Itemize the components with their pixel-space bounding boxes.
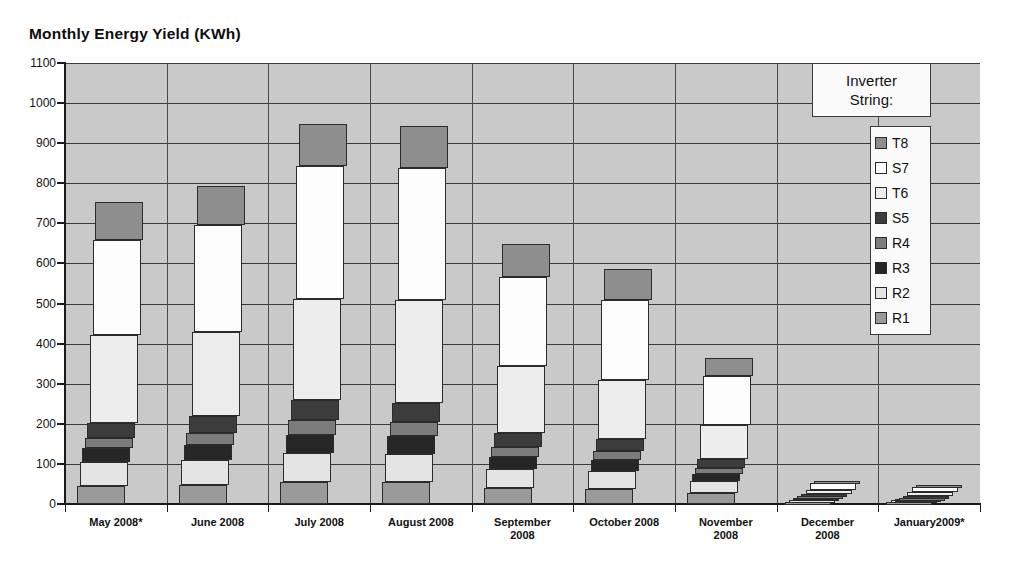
legend-title-line-1: Inverter xyxy=(846,71,897,90)
bar-segment xyxy=(382,482,430,504)
bar-segment xyxy=(296,166,344,298)
y-tick-label: 400 xyxy=(16,339,56,349)
bar-segment xyxy=(499,277,547,366)
bar-segment xyxy=(194,225,242,332)
bar-segment xyxy=(484,488,532,504)
chart-container: Monthly Energy Yield (KWh) 0100200300400… xyxy=(0,0,1032,587)
bar-segment xyxy=(299,124,347,167)
legend-item[interactable]: R4 xyxy=(875,230,930,255)
legend-title-line-2: String: xyxy=(850,90,893,109)
bar-segment xyxy=(489,457,537,469)
bar-segment xyxy=(90,335,138,422)
bar-segment xyxy=(695,468,743,474)
bar-segment xyxy=(181,460,229,485)
bar-segment xyxy=(916,485,962,488)
bar-segment xyxy=(502,244,550,277)
x-tick-mark xyxy=(65,505,66,512)
bar-segment xyxy=(692,474,740,481)
legend-item-label: R3 xyxy=(892,261,910,275)
bar-segment xyxy=(810,483,856,490)
legend-swatch-icon xyxy=(875,187,887,199)
bar-segment xyxy=(806,490,852,494)
bar-segment xyxy=(77,486,125,504)
gridline-vertical xyxy=(675,63,676,504)
bar-segment xyxy=(385,454,433,482)
gridline-vertical xyxy=(370,63,371,504)
bar-segment xyxy=(82,448,130,462)
bar-segment xyxy=(400,126,448,168)
bar-segment xyxy=(705,358,753,376)
legend-swatch-icon xyxy=(875,312,887,324)
legend-item[interactable]: R1 xyxy=(875,305,930,330)
gridline-vertical xyxy=(167,63,168,504)
y-tick-label: 700 xyxy=(16,218,56,228)
x-tick-label: January2009* xyxy=(869,516,989,529)
y-tick-label: 1000 xyxy=(16,98,56,108)
legend-swatch-icon xyxy=(875,237,887,249)
legend-title-box: Inverter String: xyxy=(812,63,931,117)
legend-swatch-icon xyxy=(875,262,887,274)
y-tick-mark xyxy=(57,463,65,465)
x-tick-mark xyxy=(777,505,778,512)
bar-segment xyxy=(189,416,237,433)
bar-segment xyxy=(286,435,334,453)
x-tick-mark xyxy=(167,505,168,512)
x-tick-mark xyxy=(980,505,981,512)
bar-segment xyxy=(192,332,240,415)
y-axis-line xyxy=(64,62,66,505)
legend-item-label: T8 xyxy=(892,136,908,150)
bar-segment xyxy=(903,496,949,499)
bar-segment xyxy=(697,459,745,467)
legend-items-box: T8S7T6S5R4R3R2R1 xyxy=(870,126,931,335)
bar-segment xyxy=(598,380,646,439)
bar-segment xyxy=(288,420,336,435)
bar-segment xyxy=(186,433,234,445)
y-tick-mark xyxy=(57,142,65,144)
y-tick-mark xyxy=(57,303,65,305)
y-tick-label: 100 xyxy=(16,459,56,469)
y-tick-label: 0 xyxy=(16,499,56,509)
gridline-vertical xyxy=(573,63,574,504)
y-tick-mark xyxy=(57,503,65,505)
legend-item[interactable]: T6 xyxy=(875,180,930,205)
bar-segment xyxy=(907,492,953,496)
bar-segment xyxy=(497,366,545,433)
legend-item[interactable]: R2 xyxy=(875,280,930,305)
legend-item-label: R4 xyxy=(892,236,910,250)
bar-segment xyxy=(390,422,438,436)
legend-item[interactable]: S5 xyxy=(875,205,930,230)
bar-segment xyxy=(293,299,341,400)
bar-segment xyxy=(591,460,639,471)
legend-item[interactable]: S7 xyxy=(875,155,930,180)
legend-item[interactable]: R3 xyxy=(875,255,930,280)
x-tick-mark xyxy=(675,505,676,512)
legend-item-label: T6 xyxy=(892,186,908,200)
legend-item-label: R2 xyxy=(892,286,910,300)
legend-item-label: R1 xyxy=(892,311,910,325)
x-tick-mark xyxy=(472,505,473,512)
gridline-vertical xyxy=(268,63,269,504)
bar-segment xyxy=(87,423,135,438)
bar-segment xyxy=(184,445,232,460)
bar-segment xyxy=(197,186,245,225)
x-tick-mark xyxy=(878,505,879,512)
y-tick-mark xyxy=(57,62,65,64)
bar-segment xyxy=(494,433,542,446)
bar-segment xyxy=(179,485,227,504)
bar-segment xyxy=(690,481,738,493)
gridline-horizontal xyxy=(65,143,980,144)
y-tick-label: 1100 xyxy=(16,58,56,68)
y-tick-mark xyxy=(57,343,65,345)
y-tick-label: 300 xyxy=(16,379,56,389)
legend-item[interactable]: T8 xyxy=(875,130,930,155)
bar-segment xyxy=(486,469,534,488)
bar-segment xyxy=(395,300,443,402)
bar-segment xyxy=(814,481,860,484)
bar-segment xyxy=(283,453,331,482)
legend-swatch-icon xyxy=(875,287,887,299)
x-tick-mark xyxy=(573,505,574,512)
legend-item-label: S7 xyxy=(892,161,909,175)
bar-segment xyxy=(593,451,641,460)
gridline-horizontal xyxy=(65,183,980,184)
x-tick-mark xyxy=(370,505,371,512)
